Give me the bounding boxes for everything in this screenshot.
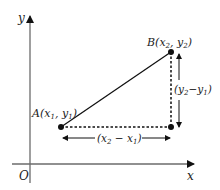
coordinate-diagram: y x O B(x2, y2) A(x1, y1) (x2 − x1) (y2−… bbox=[0, 0, 220, 190]
origin-label: O bbox=[19, 169, 29, 183]
point-b-label: B(x2, y2) bbox=[146, 36, 192, 50]
segment-ab bbox=[61, 52, 171, 127]
corner-dot bbox=[168, 124, 174, 130]
y-axis-label: y bbox=[17, 11, 25, 25]
x-axis-label: x bbox=[187, 169, 194, 183]
dim-horizontal-label: (x2 − x1) bbox=[97, 132, 141, 146]
dim-vertical-label: (y2−y1) bbox=[174, 83, 212, 97]
point-a-label: A(x1, y1) bbox=[31, 107, 77, 121]
point-a-dot bbox=[58, 124, 64, 130]
